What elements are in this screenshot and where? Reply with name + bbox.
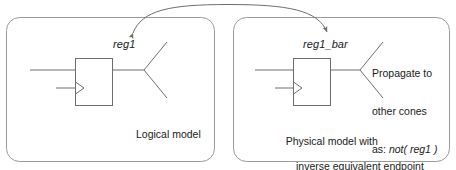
logical-register-body	[76, 59, 113, 106]
annotation-propagate-note: Propagate to other cones as: not( reg1 )	[372, 41, 437, 170]
annotation-line-3: as: not( reg1 )	[372, 143, 437, 156]
signal-label-reg1-bar: reg1_bar	[303, 38, 348, 51]
physical-register-body	[294, 59, 331, 106]
annotation-line-2: other cones	[372, 105, 437, 118]
annotation-line-1: Propagate to	[372, 67, 437, 80]
caption-logical-model: Logical model	[136, 128, 201, 141]
annotation-line-3-prefix: as:	[372, 143, 389, 155]
annotation-expression: not( reg1 )	[389, 143, 437, 155]
caption-physical-line1: Physical model with	[286, 135, 378, 147]
signal-label-reg1: reg1	[113, 38, 135, 51]
figure-diagram: reg1 reg1_bar Logical model Physical mod…	[0, 0, 456, 170]
